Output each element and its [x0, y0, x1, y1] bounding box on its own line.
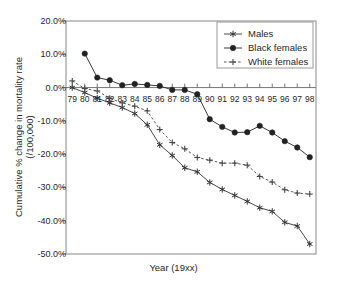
x-tick-label: 95 — [268, 94, 277, 104]
x-tick-label: 92 — [230, 94, 239, 104]
x-tick-label: 97 — [293, 94, 302, 104]
x-tick-label: 82 — [105, 94, 114, 104]
x-tick-label: 91 — [218, 94, 227, 104]
x-tick-label: 81 — [93, 94, 102, 104]
x-tick-label: 80 — [80, 94, 89, 104]
x-tick-label: 96 — [280, 94, 289, 104]
x-tick-label: 90 — [205, 94, 214, 104]
chart-figure: Cumulative % change in mortality rate(/1… — [0, 0, 347, 289]
x-tick-label: 85 — [143, 94, 152, 104]
x-tick-label: 83 — [118, 94, 127, 104]
x-tick-label: 88 — [180, 94, 189, 104]
x-tick-label-group: 7980818283848586878889909192939495969798 — [0, 0, 347, 289]
x-tick-label: 98 — [305, 94, 314, 104]
x-tick-label: 94 — [255, 94, 264, 104]
x-tick-label: 89 — [193, 94, 202, 104]
x-tick-label: 84 — [130, 94, 139, 104]
x-tick-label: 79 — [68, 94, 77, 104]
x-tick-label: 87 — [168, 94, 177, 104]
x-tick-label: 93 — [243, 94, 252, 104]
x-tick-label: 86 — [155, 94, 164, 104]
